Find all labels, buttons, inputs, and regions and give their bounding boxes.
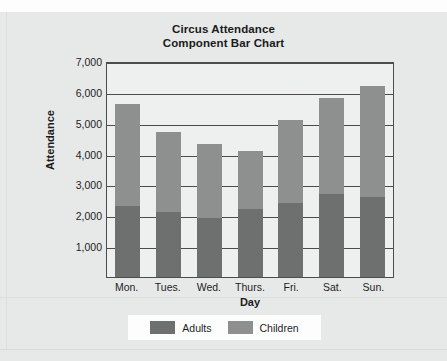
stacked-bar[interactable] bbox=[197, 144, 222, 277]
x-axis-tick-label: Wed. bbox=[188, 281, 229, 293]
bar-slot bbox=[352, 63, 393, 277]
x-axis-tick-label: Fri. bbox=[271, 281, 312, 293]
x-axis-tick-label: Sat. bbox=[312, 281, 353, 293]
bar-segment-adults[interactable] bbox=[115, 206, 140, 277]
stacked-bar[interactable] bbox=[115, 104, 140, 277]
y-axis-tick-label: 3,000 bbox=[56, 179, 102, 191]
chart-subtitle: Component Bar Chart bbox=[0, 36, 447, 50]
scan-bottom-rule bbox=[0, 349, 447, 350]
bar-segment-children[interactable] bbox=[115, 104, 140, 206]
bar-segment-adults[interactable] bbox=[319, 194, 344, 277]
x-axis-tick-label: Tues. bbox=[147, 281, 188, 293]
y-axis-tick-label: 6,000 bbox=[56, 87, 102, 99]
stacked-bar[interactable] bbox=[278, 120, 303, 277]
bar-segment-children[interactable] bbox=[156, 132, 181, 212]
chart-title-block: Circus Attendance Component Bar Chart bbox=[0, 22, 447, 50]
bar-slot bbox=[230, 63, 271, 277]
legend-entry[interactable]: Adults bbox=[150, 321, 211, 334]
bar-slot bbox=[311, 63, 352, 277]
chart-legend: AdultsChildren bbox=[128, 315, 321, 340]
x-axis-tick-label: Sun. bbox=[353, 281, 394, 293]
bar-segment-adults[interactable] bbox=[238, 209, 263, 277]
legend-entry[interactable]: Children bbox=[228, 321, 299, 334]
scan-left-rule bbox=[6, 12, 7, 350]
chart-title: Circus Attendance bbox=[0, 22, 447, 36]
x-axis-title: Day bbox=[106, 296, 394, 308]
bar-slot bbox=[270, 63, 311, 277]
x-axis-tick-label: Mon. bbox=[106, 281, 147, 293]
bar-segment-children[interactable] bbox=[360, 86, 385, 197]
y-axis-tick-labels: 7,0006,0005,0004,0003,0002,0001,000 bbox=[56, 62, 102, 278]
bar-slot bbox=[189, 63, 230, 277]
stacked-bar[interactable] bbox=[156, 132, 181, 277]
bar-slot bbox=[148, 63, 189, 277]
y-axis-tick-label: 2,000 bbox=[56, 210, 102, 222]
x-axis-tick-label: Thurs. bbox=[229, 281, 270, 293]
plot-area bbox=[106, 62, 394, 278]
x-axis-tick-labels: Mon.Tues.Wed.Thurs.Fri.Sat.Sun. bbox=[106, 281, 394, 293]
bar-group bbox=[107, 63, 393, 277]
y-axis-title: Attendance bbox=[44, 110, 56, 170]
stacked-bar[interactable] bbox=[238, 151, 263, 278]
bar-segment-children[interactable] bbox=[197, 144, 222, 218]
chart-figure: Circus Attendance Component Bar Chart At… bbox=[0, 0, 447, 361]
bar-segment-adults[interactable] bbox=[197, 218, 222, 277]
y-axis-tick-label: 4,000 bbox=[56, 149, 102, 161]
bar-segment-children[interactable] bbox=[319, 98, 344, 194]
legend-swatch bbox=[150, 321, 175, 334]
bar-slot bbox=[107, 63, 148, 277]
y-axis-tick-label: 5,000 bbox=[56, 118, 102, 130]
bar-segment-adults[interactable] bbox=[156, 212, 181, 277]
bar-segment-children[interactable] bbox=[238, 151, 263, 210]
legend-label: Children bbox=[260, 322, 299, 334]
bar-segment-children[interactable] bbox=[278, 120, 303, 203]
legend-swatch bbox=[228, 321, 253, 334]
y-axis-tick-label: 1,000 bbox=[56, 241, 102, 253]
y-axis-tick-label: 7,000 bbox=[56, 56, 102, 68]
bar-segment-adults[interactable] bbox=[360, 197, 385, 277]
bar-segment-adults[interactable] bbox=[278, 203, 303, 277]
stacked-bar[interactable] bbox=[360, 86, 385, 277]
stacked-bar[interactable] bbox=[319, 98, 344, 277]
legend-label: Adults bbox=[182, 322, 211, 334]
scan-top-band bbox=[0, 0, 447, 12]
